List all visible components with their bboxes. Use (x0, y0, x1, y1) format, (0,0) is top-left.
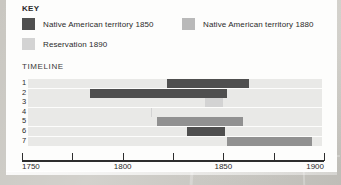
axis-tick (123, 153, 124, 161)
legend-item-reservation-1890: Reservation 1890 (22, 38, 107, 50)
timeline-row: 4 (6, 108, 337, 117)
legend-swatch-reservation-1890 (22, 38, 35, 50)
timeline-row-track (28, 127, 322, 136)
timeline-bar (187, 127, 225, 136)
legend-label-territory-1880: Native American territory 1880 (203, 20, 314, 29)
axis-tick-label: 1750 (22, 162, 40, 171)
timeline-row: 2 (6, 89, 337, 98)
axis-tick (22, 153, 23, 161)
timeline-title: TIMELINE (22, 62, 64, 71)
legend-label-reservation-1890: Reservation 1890 (43, 40, 107, 49)
legend-item-territory-1850: Native American territory 1850 (22, 18, 154, 30)
timeline-plot: 1234567 (6, 76, 337, 172)
timeline-row: 5 (6, 117, 337, 126)
timeline-row-track (28, 108, 322, 117)
timeline-row: 7 (6, 137, 337, 146)
axis-tick (223, 153, 224, 161)
axis-tick (173, 153, 174, 161)
timeline-row: 1 (6, 79, 337, 88)
axis-tick (274, 153, 275, 161)
chart-card: KEY Native American territory 1850 Nativ… (6, 0, 337, 172)
axis-tick (72, 153, 73, 161)
legend-item-territory-1880: Native American territory 1880 (182, 18, 314, 30)
key-title: KEY (22, 4, 39, 13)
timeline-bar (151, 108, 153, 117)
timeline-bar (90, 89, 227, 98)
axis-tick-label: 1850 (214, 162, 232, 171)
legend-label-territory-1850: Native American territory 1850 (43, 20, 154, 29)
axis-tick-label: 1800 (114, 162, 132, 171)
legend-swatch-territory-1850 (22, 18, 35, 30)
timeline-row: 6 (6, 127, 337, 136)
timeline-bar (227, 137, 312, 146)
timeline-row-track (28, 98, 322, 107)
axis-tick-label: 1900 (306, 162, 324, 171)
timeline-row: 3 (6, 98, 337, 107)
timeline-bar (205, 98, 223, 107)
legend-swatch-territory-1880 (182, 18, 195, 30)
timeline-bar (167, 79, 250, 88)
axis-tick (324, 153, 325, 161)
timeline-bar (157, 117, 244, 126)
